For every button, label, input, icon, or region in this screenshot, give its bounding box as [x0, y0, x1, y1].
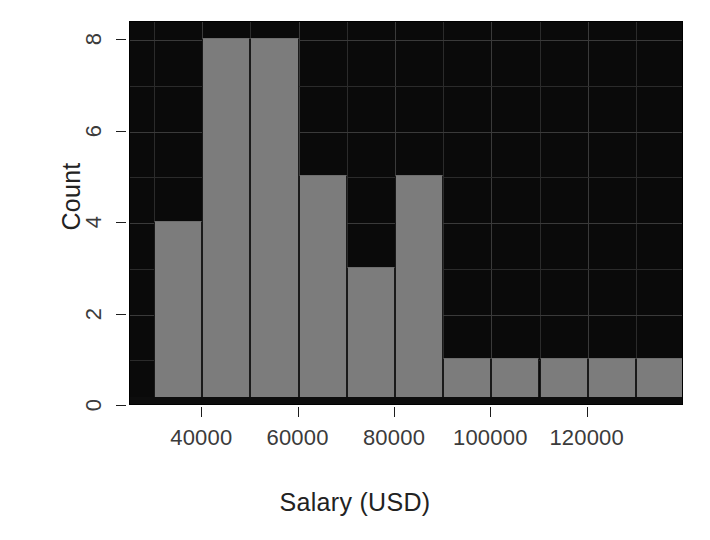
- histogram-bar: [299, 175, 347, 404]
- x-tick-label: 100000: [453, 425, 528, 451]
- histogram-bar: [202, 38, 250, 404]
- y-tick-label: 6: [81, 118, 107, 144]
- x-tick-label: 80000: [363, 425, 425, 451]
- x-tick-label: 120000: [549, 425, 624, 451]
- x-tick-mark: [201, 407, 202, 417]
- y-tick-label: 8: [81, 26, 107, 52]
- grid-line-vertical-major: [588, 22, 589, 404]
- y-axis-title: Count: [57, 142, 86, 252]
- y-tick-mark: [116, 222, 126, 223]
- x-tick-mark: [490, 407, 491, 417]
- y-tick-mark: [116, 131, 126, 132]
- x-axis-title: Salary (USD): [0, 488, 710, 517]
- histogram-bar: [250, 38, 298, 404]
- x-tick-label: 40000: [170, 425, 232, 451]
- x-tick-mark: [394, 407, 395, 417]
- grid-line-vertical: [636, 22, 637, 404]
- grid-line-vertical: [540, 22, 541, 404]
- histogram-bar: [347, 267, 395, 404]
- y-tick-label: 2: [81, 301, 107, 327]
- histogram-figure: 400006000080000100000120000 02468 Salary…: [0, 0, 710, 540]
- grid-line-vertical: [443, 22, 444, 404]
- x-tick-label: 60000: [267, 425, 329, 451]
- y-tick-label: 0: [81, 392, 107, 418]
- y-tick-mark: [116, 39, 126, 40]
- plot-area: [129, 21, 683, 405]
- histogram-bar: [154, 221, 202, 404]
- baseline-strip: [130, 397, 682, 404]
- x-tick-mark: [298, 407, 299, 417]
- x-tick-mark: [587, 407, 588, 417]
- grid-line-vertical-major: [491, 22, 492, 404]
- histogram-bar: [395, 175, 443, 404]
- y-tick-mark: [116, 314, 126, 315]
- y-tick-mark: [116, 405, 126, 406]
